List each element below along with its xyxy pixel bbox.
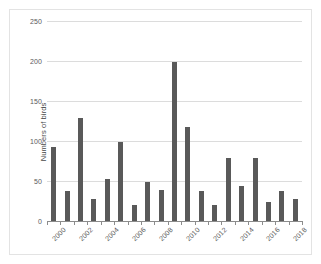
x-axis-tick <box>60 221 61 225</box>
bar <box>293 199 298 221</box>
x-axis-tick <box>302 221 303 225</box>
x-axis-tick <box>168 221 169 225</box>
x-axis-tick-label: 2018 <box>292 226 308 242</box>
x-axis-tick <box>114 221 115 225</box>
x-axis-tick-label: 2012 <box>211 226 227 242</box>
bar <box>266 202 271 221</box>
y-axis-tick-label: 50 <box>34 178 42 185</box>
x-axis-tick <box>141 221 142 225</box>
plot-area: 050100150200250 <box>47 21 302 221</box>
x-axis-tick <box>262 221 263 225</box>
bar <box>65 191 70 221</box>
bar <box>253 158 258 221</box>
bar <box>239 186 244 221</box>
x-axis-tick <box>221 221 222 225</box>
bar <box>226 158 231 221</box>
bar <box>279 191 284 221</box>
x-axis-tick <box>101 221 102 225</box>
y-axis-tick-label: 200 <box>30 58 42 65</box>
x-axis-tick <box>154 221 155 225</box>
x-axis-tick <box>181 221 182 225</box>
bar <box>51 147 56 221</box>
x-axis-tick-label: 2002 <box>77 226 93 242</box>
bar <box>199 191 204 221</box>
x-axis-tick <box>74 221 75 225</box>
x-axis-tick <box>128 221 129 225</box>
y-axis-tick-label: 250 <box>30 18 42 25</box>
x-axis-tick-label: 2004 <box>104 226 120 242</box>
bar <box>91 199 96 221</box>
x-axis-tick-label: 2016 <box>265 226 281 242</box>
x-axis-tick <box>289 221 290 225</box>
bar <box>78 118 83 221</box>
bar <box>159 190 164 221</box>
y-axis-tick-label: 150 <box>30 98 42 105</box>
y-axis-tick-label: 100 <box>30 138 42 145</box>
bar <box>132 205 137 221</box>
x-axis-tick-label: 2006 <box>131 226 147 242</box>
x-axis-tick <box>47 221 48 225</box>
x-axis-tick-label: 2014 <box>238 226 254 242</box>
x-axis-tick <box>87 221 88 225</box>
x-axis-tick-labels: 2000200220042006200820102012201420162018 <box>47 226 312 260</box>
x-axis-tick <box>248 221 249 225</box>
bar <box>105 179 110 221</box>
x-axis-tick-label: 2008 <box>158 226 174 242</box>
bar <box>145 182 150 221</box>
x-axis-ticks <box>47 221 302 225</box>
x-axis-tick-label: 2000 <box>50 226 66 242</box>
x-axis-tick <box>275 221 276 225</box>
bar <box>118 142 123 221</box>
x-axis-tick-label: 2010 <box>185 226 201 242</box>
bar-chart-figure: Numbers of birds 050100150200250 2000200… <box>0 0 321 264</box>
bar-series <box>47 21 302 221</box>
x-axis-tick <box>208 221 209 225</box>
bar <box>212 205 217 221</box>
bar <box>172 62 177 221</box>
bar <box>185 127 190 221</box>
x-axis-tick <box>195 221 196 225</box>
y-axis-tick-label: 0 <box>38 218 42 225</box>
x-axis-tick <box>235 221 236 225</box>
